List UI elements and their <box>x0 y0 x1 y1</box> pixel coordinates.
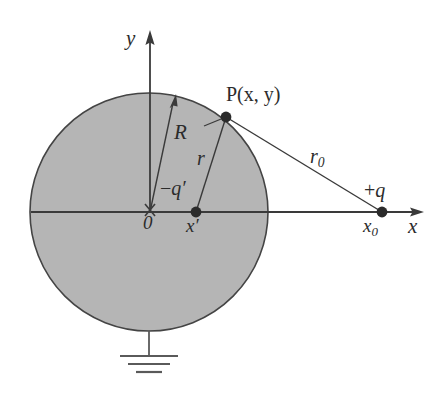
distance-r-label: r <box>197 148 205 168</box>
field-point-prefix: P( <box>226 83 244 105</box>
distance-r0-label: r0 <box>310 146 325 169</box>
y-axis-label: y <box>126 28 135 49</box>
field-point-suffix: ) <box>274 83 281 105</box>
image-charge-position-label: x′ <box>186 216 199 235</box>
source-charge-position-label: x0 <box>363 216 378 239</box>
source-charge-sign: + <box>364 179 375 201</box>
point-marker-source-charge[interactable] <box>377 207 388 218</box>
source-charge-position-subscript: 0 <box>371 224 377 239</box>
image-charge-label: −q′ <box>160 178 186 198</box>
image-charge-prime: ′ <box>181 177 185 199</box>
field-point-y: y <box>264 83 274 105</box>
source-charge-label: +q <box>364 180 385 200</box>
field-point-comma: , <box>254 83 264 105</box>
field-point-label: P(x, y) <box>226 84 280 104</box>
source-charge-letter: q <box>375 179 385 201</box>
image-charge-letter: q <box>171 177 181 199</box>
ground-symbol-icon <box>120 331 178 372</box>
field-point-x: x <box>244 83 254 105</box>
image-charge-position-prime: ′ <box>194 215 198 236</box>
radius-label: R <box>174 122 187 143</box>
physics-diagram-canvas: y x 0 R r r0 P(x, y) −q′ x′ +q x0 <box>0 0 437 393</box>
distance-r0-base: r <box>310 145 318 167</box>
distance-r0-subscript: 0 <box>318 155 325 170</box>
image-charge-sign: − <box>160 177 171 199</box>
x-axis-label: x <box>408 216 417 237</box>
point-marker-field-point[interactable] <box>221 112 232 123</box>
origin-label: 0 <box>143 213 153 232</box>
